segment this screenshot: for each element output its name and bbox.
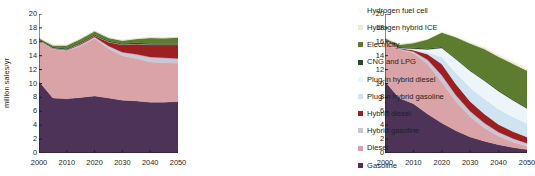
- legend-swatch-icon: [358, 94, 363, 99]
- legend-label: Plug-in hybrid gasoline: [367, 93, 444, 101]
- y-tick-label: 4: [33, 121, 37, 128]
- legend-item[interactable]: Hybrid gasoline: [358, 122, 419, 139]
- legend-label: Hybrid diesel: [367, 110, 411, 118]
- y-tick-label: 10: [29, 80, 37, 87]
- y-tick-label: 16: [29, 38, 37, 45]
- x-tick-label: 2000: [31, 159, 47, 166]
- legend-label: Hydrogen hybrid ICE: [367, 24, 438, 32]
- legend-label: Plug-in hybrid diesel: [367, 76, 435, 84]
- chart-panel-left: million sales/yr 20181614121086420 20002…: [0, 0, 186, 176]
- plot-area-left: [39, 14, 178, 153]
- x-tick-label: 2050: [519, 159, 535, 166]
- legend-label: Gasoline: [367, 162, 397, 170]
- legend-swatch-icon: [358, 128, 363, 133]
- x-tick-label: 2040: [142, 159, 158, 166]
- y-tick-label: 20: [29, 10, 37, 17]
- legend-label: Electricity: [367, 41, 400, 49]
- legend: Hydrogen fuel cellHydrogen hybrid ICEEle…: [358, 2, 464, 176]
- legend-item[interactable]: Plug-in hybrid gasoline: [358, 88, 444, 105]
- y-tick-label: 14: [29, 52, 37, 59]
- x-tick-label: 2010: [59, 159, 75, 166]
- y-tick-label: 18: [29, 24, 37, 31]
- legend-item[interactable]: Diesel: [358, 140, 388, 157]
- legend-item[interactable]: Hybrid diesel: [358, 105, 411, 122]
- legend-swatch-icon: [358, 146, 363, 151]
- legend-swatch-icon: [358, 111, 363, 116]
- x-tick-label: 2020: [86, 159, 102, 166]
- y-tick-label: 6: [33, 108, 37, 115]
- legend-label: Hybrid gasoline: [367, 127, 419, 135]
- area-chart-svg: [39, 14, 178, 153]
- legend-item[interactable]: CNG and LPG: [358, 54, 416, 71]
- y-tick-label: 0: [33, 149, 37, 156]
- y-axis-title: million sales/yr: [2, 0, 11, 36]
- legend-swatch-icon: [358, 77, 363, 82]
- legend-swatch-icon: [358, 42, 363, 47]
- legend-item[interactable]: Hydrogen hybrid ICE: [358, 19, 438, 36]
- x-tick-label: 2030: [114, 159, 130, 166]
- legend-swatch-icon: [358, 8, 363, 13]
- legend-item[interactable]: Hydrogen fuel cell: [358, 2, 428, 19]
- chart-panel-right: 20181614121086420 2000201020202030204020…: [182, 0, 360, 176]
- x-tick-label: 2040: [490, 159, 506, 166]
- legend-swatch-icon: [358, 163, 363, 168]
- y-tick-label: 2: [33, 135, 37, 142]
- legend-swatch-icon: [358, 25, 363, 30]
- y-tick-label: 8: [33, 94, 37, 101]
- y-tick-label: 12: [29, 66, 37, 73]
- legend-label: Diesel: [367, 144, 388, 152]
- x-tick-label: 2030: [462, 159, 478, 166]
- legend-item[interactable]: Gasoline: [358, 157, 397, 174]
- legend-item[interactable]: Electricity: [358, 36, 400, 53]
- legend-label: CNG and LPG: [367, 58, 416, 66]
- legend-swatch-icon: [358, 60, 363, 65]
- legend-label: Hydrogen fuel cell: [367, 7, 428, 15]
- legend-item[interactable]: Plug-in hybrid diesel: [358, 71, 435, 88]
